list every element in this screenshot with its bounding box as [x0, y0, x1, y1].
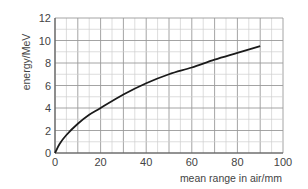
x-tick-label: 0 — [52, 156, 58, 168]
y-tick-label: 0 — [45, 147, 51, 159]
x-tick-label: 80 — [231, 156, 243, 168]
grid — [55, 18, 283, 153]
x-tick-label: 100 — [274, 156, 292, 168]
tick-labels: 020406080100024681012 — [39, 12, 292, 168]
x-tick-label: 60 — [186, 156, 198, 168]
y-tick-label: 12 — [39, 12, 51, 24]
energy-range-chart: 020406080100024681012 energy/MeV mean ra… — [0, 0, 308, 189]
y-tick-label: 10 — [39, 35, 51, 47]
x-tick-label: 40 — [140, 156, 152, 168]
x-tick-label: 20 — [94, 156, 106, 168]
x-axis-label: mean range in air/mm — [180, 172, 282, 184]
y-axis-label: energy/MeV — [20, 34, 32, 91]
y-tick-label: 2 — [45, 125, 51, 137]
y-tick-label: 4 — [45, 102, 51, 114]
y-tick-label: 6 — [45, 80, 51, 92]
y-tick-label: 8 — [45, 57, 51, 69]
